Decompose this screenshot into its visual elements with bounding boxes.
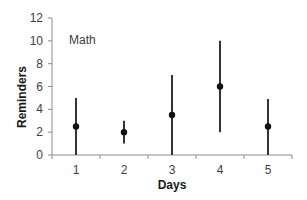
data-point-marker — [217, 83, 223, 89]
error-bar-chart: 02468101212345DaysRemindersMath — [0, 0, 307, 200]
y-axis-title: Reminders — [15, 66, 29, 128]
y-tick-label: 10 — [30, 34, 44, 48]
y-tick-label: 12 — [30, 11, 44, 25]
y-tick-label: 0 — [36, 148, 43, 162]
data-point-marker — [121, 129, 127, 135]
x-tick-label: 2 — [121, 163, 128, 177]
x-tick-label: 5 — [265, 163, 272, 177]
data-point-marker — [73, 123, 79, 129]
y-tick-label: 4 — [36, 102, 43, 116]
x-tick-label: 1 — [73, 163, 80, 177]
data-point-marker — [265, 123, 271, 129]
y-tick-label: 8 — [36, 57, 43, 71]
x-tick-label: 4 — [217, 163, 224, 177]
data-point-marker — [169, 112, 175, 118]
x-tick-label: 3 — [169, 163, 176, 177]
x-axis-title: Days — [158, 178, 187, 192]
y-tick-label: 6 — [36, 80, 43, 94]
y-tick-label: 2 — [36, 125, 43, 139]
chart-annotation: Math — [69, 33, 96, 47]
plot-area: 02468101212345DaysRemindersMath — [0, 0, 307, 200]
